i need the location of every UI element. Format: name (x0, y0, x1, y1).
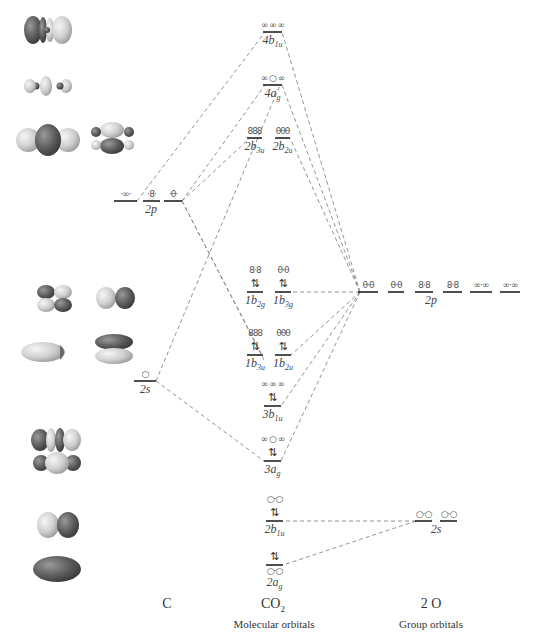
orbital-glyph-icon: ∞ ○ ∞ (261, 73, 285, 83)
orbital-image-3ag (33, 452, 81, 474)
correlation-line (291, 292, 360, 355)
level-label-O-2s: 2s (431, 522, 442, 537)
electron-pair-icon: ⇅ (278, 340, 287, 353)
orbital-glyph-icon: 888 (247, 126, 261, 136)
level-label-C-2p: 2p (145, 202, 157, 217)
orbital-glyph-icon: ∞ ∞ ∞ (261, 379, 284, 389)
oxygen-column-title: 2 O (421, 596, 442, 612)
molecule-column-subtitle: Molecular orbitals (234, 618, 315, 630)
correlation-line (282, 85, 360, 292)
level-label-4ag: 4ag (265, 86, 281, 102)
oxygen-column-subtitle: Group orbitals (399, 618, 463, 630)
level-label-1b2u: 1b2u (273, 356, 293, 372)
level-label-1b3u: 1b3u (245, 356, 265, 372)
level-label-3ag: 3ag (265, 462, 281, 478)
orbital-image-2ag (33, 556, 81, 582)
electron-pair-icon: ⇅ (250, 277, 259, 290)
orbital-glyph-icon: ∞·∞ (474, 280, 489, 290)
orbital-glyph-icon: ○·○ (267, 494, 283, 504)
orbital-image-2b3u (16, 124, 80, 156)
correlation-line (283, 521, 416, 565)
level-label-4b1u: 4b1u (263, 33, 283, 49)
orbital-glyph-icon: θ·θ (278, 265, 289, 275)
orbital-glyph-icon: ○·○ (441, 509, 457, 519)
orbital-image-4ag (24, 76, 72, 96)
level-label-2b3u: 2b3u (245, 139, 265, 155)
correlation-line (282, 32, 360, 292)
level-label-1b2g: 1b2g (245, 293, 265, 309)
level-label-1b3g: 1b3g (273, 293, 293, 309)
orbital-glyph-icon: θ·θ (391, 280, 402, 290)
electron-pair-icon: ⇅ (278, 277, 287, 290)
orbital-glyph-icon: 8·8 (249, 265, 260, 275)
orbital-glyph-icon: θθθ (276, 126, 290, 136)
orbital-glyph-icon: ·8· (147, 189, 155, 199)
orbital-glyph-icon: ○ (142, 369, 149, 379)
orbital-glyph-icon: 888 (248, 328, 262, 338)
correlation-line (182, 138, 250, 201)
orbital-glyph-icon: 8·8 (418, 280, 429, 290)
level-label-C-2s: 2s (140, 382, 151, 397)
level-label-3b1u: 3b1u (263, 407, 283, 423)
orbital-image-3b1u (31, 428, 81, 452)
orbital-image-2b1u (37, 512, 79, 538)
orbital-glyph-icon: ∞·∞ (503, 280, 518, 290)
energy-levels (114, 32, 520, 565)
electron-pair-icon: ⇅ (250, 340, 259, 353)
orbital-glyph-icon: ○·○ (416, 509, 432, 519)
level-label-O-2p: 2p (425, 293, 437, 308)
electron-pair-icon: ⇅ (268, 446, 277, 459)
orbital-glyph-icon: ·θ· (169, 189, 177, 199)
orbital-image-1b3u (21, 342, 65, 362)
correlation-line (281, 292, 360, 461)
orbital-glyph-icon: θ·θ (363, 280, 374, 290)
orbital-glyph-icon: 8·8 (447, 280, 458, 290)
orbital-glyph-icon: θθθ (276, 328, 290, 338)
orbital-glyph-icon: ∞ ∞ ∞ (261, 20, 284, 30)
orbital-glyph-icon: ∞ ○ ∞ (261, 434, 285, 444)
electron-pair-icon: ⇅ (270, 506, 279, 519)
molecule-column-title: CO2 (261, 596, 285, 614)
electron-pair-icon: ⇅ (270, 550, 279, 563)
correlation-line (137, 32, 265, 201)
orbital-image-2b2u (91, 122, 134, 154)
level-label-2b1u: 2b1u (265, 522, 285, 538)
orbital-image-1b2g (37, 285, 72, 312)
orbital-image-1b3g (96, 287, 135, 309)
orbital-image-4b1u (24, 16, 72, 44)
co2-mo-diagram: ·∞··8··θ·2p○2sθ·θθ·θ8·88·8∞·∞∞·∞2p○·○○·○… (0, 0, 554, 641)
electron-pair-icon: ⇅ (268, 391, 277, 404)
level-label-2b2u: 2b2u (273, 139, 293, 155)
orbital-glyph-icon: ·∞· (120, 189, 130, 199)
level-label-2ag: 2ag (267, 575, 283, 591)
carbon-column-title: C (162, 596, 171, 612)
orbital-image-1b2u (95, 334, 133, 364)
correlation-line (156, 381, 264, 461)
correlation-line (290, 138, 360, 292)
